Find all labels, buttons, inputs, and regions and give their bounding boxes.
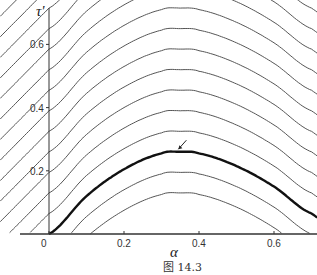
level-curve bbox=[0, 0, 317, 16]
x-tick-label: 0 bbox=[41, 238, 47, 249]
y-axis-label: τ' bbox=[36, 3, 45, 19]
level-curve bbox=[10, 111, 317, 233]
level-curve bbox=[30, 131, 317, 232]
level-curve bbox=[0, 90, 317, 222]
contour-chart: 00.20.40.6 0.20.40.6 τ' α 图 14.3 bbox=[0, 0, 317, 275]
y-ticks: 0.20.40.6 bbox=[30, 39, 49, 176]
x-axis-label: α bbox=[170, 244, 179, 260]
figure-caption: 图 14.3 bbox=[163, 261, 202, 274]
x-tick-label: 0.4 bbox=[192, 238, 206, 249]
level-curve bbox=[0, 69, 317, 201]
level-curve bbox=[0, 28, 317, 160]
x-tick-label: 0.6 bbox=[267, 238, 281, 249]
level-curve bbox=[0, 0, 317, 98]
level-curve bbox=[0, 49, 317, 181]
y-tick-label: 0.2 bbox=[30, 166, 44, 177]
y-tick-label: 0.4 bbox=[30, 103, 44, 114]
level-curve bbox=[0, 8, 317, 140]
arrow-annotation bbox=[178, 140, 186, 149]
level-curve bbox=[90, 193, 281, 234]
y-tick-label: 0.6 bbox=[30, 39, 44, 50]
level-curve bbox=[0, 0, 317, 78]
level-curve bbox=[0, 0, 317, 57]
x-tick-label: 0.2 bbox=[117, 238, 131, 249]
level-curves bbox=[0, 0, 317, 234]
